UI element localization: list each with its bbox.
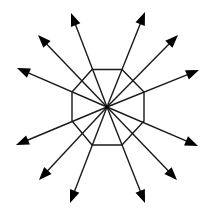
- arrow-shaft: [46, 43, 107, 107]
- radial-arrow-diagram: [0, 0, 212, 215]
- arrowhead-icon: [71, 13, 80, 27]
- arrowhead-icon: [70, 189, 79, 203]
- arrow: [107, 12, 145, 107]
- arrow-shaft: [107, 74, 189, 107]
- arrow-shaft: [107, 22, 141, 107]
- arrowhead-icon: [16, 135, 30, 145]
- arrowhead-icon: [17, 68, 31, 78]
- arrow: [107, 107, 177, 180]
- center-point: [105, 105, 109, 109]
- arrow-shaft: [26, 107, 107, 141]
- arrow: [71, 13, 107, 107]
- arrowhead-icon: [184, 136, 198, 146]
- arrow: [17, 68, 107, 107]
- arrow: [70, 107, 107, 203]
- arrow: [107, 70, 199, 107]
- arrow: [16, 107, 107, 145]
- arrow-shaft: [107, 107, 169, 172]
- arrow-shaft: [46, 107, 107, 172]
- arrowhead-icon: [185, 70, 199, 79]
- arrow-shaft: [74, 107, 107, 193]
- arrow-shaft: [107, 43, 170, 107]
- arrowhead-icon: [136, 189, 145, 203]
- arrow: [39, 107, 107, 180]
- arrow: [107, 35, 178, 107]
- arrowhead-icon: [136, 12, 145, 26]
